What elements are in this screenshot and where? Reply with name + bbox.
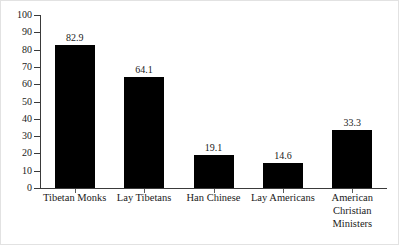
bar [194, 155, 234, 188]
y-tick-label-wrap: 0 [1, 188, 32, 189]
y-tick-mark [34, 119, 40, 120]
x-axis-category-label: Tibetan Monks [40, 191, 109, 204]
y-tick-label-wrap: 100 [1, 15, 32, 16]
y-tick-mark [34, 171, 40, 172]
y-tick-label: 30 [4, 131, 32, 141]
y-tick-label: 80 [4, 45, 32, 55]
y-tick-label-wrap: 40 [1, 119, 32, 120]
x-axis-category-label: Han Chinese [179, 191, 248, 204]
bar-value-label: 19.1 [184, 142, 244, 153]
y-tick-label: 100 [4, 10, 32, 20]
y-tick-mark [34, 188, 40, 189]
y-tick-label-wrap: 70 [1, 67, 32, 68]
bar [263, 163, 303, 188]
y-tick-mark [34, 84, 40, 85]
y-tick-label-wrap: 10 [1, 171, 32, 172]
y-tick-label-wrap: 30 [1, 136, 32, 137]
y-tick-label: 50 [4, 97, 32, 107]
y-tick-label-wrap: 90 [1, 32, 32, 33]
bar-value-label: 33.3 [322, 117, 382, 128]
y-tick-label: 0 [4, 183, 32, 193]
x-axis-category-label: Lay Tibetans [109, 191, 178, 204]
bar [124, 77, 164, 188]
y-tick-mark [34, 102, 40, 103]
y-tick-label: 20 [4, 148, 32, 158]
y-tick-mark [34, 15, 40, 16]
x-axis-category-label: American Christian Ministers [318, 191, 387, 230]
bar-value-label: 82.9 [45, 32, 105, 43]
y-tick-mark [34, 50, 40, 51]
y-tick-label-wrap: 60 [1, 84, 32, 85]
y-tick-mark [34, 32, 40, 33]
y-tick-label-wrap: 20 [1, 153, 32, 154]
y-tick-mark [34, 136, 40, 137]
bar [55, 45, 95, 188]
y-tick-label-wrap: 80 [1, 50, 32, 51]
y-tick-mark [34, 153, 40, 154]
y-tick-label-wrap: 50 [1, 102, 32, 103]
y-axis-line [40, 15, 41, 189]
y-tick-mark [34, 67, 40, 68]
y-tick-label: 90 [4, 27, 32, 37]
x-axis-category-label: Lay Americans [248, 191, 317, 204]
bar [332, 130, 372, 188]
bar-value-label: 14.6 [253, 150, 313, 161]
bar-chart-figure: 0102030405060708090100 82.964.119.114.63… [0, 0, 399, 245]
y-tick-label: 10 [4, 166, 32, 176]
y-tick-label: 40 [4, 114, 32, 124]
bar-value-label: 64.1 [114, 64, 174, 75]
plot-area: 0102030405060708090100 82.964.119.114.63… [1, 1, 399, 245]
y-tick-label: 60 [4, 79, 32, 89]
y-tick-label: 70 [4, 62, 32, 72]
